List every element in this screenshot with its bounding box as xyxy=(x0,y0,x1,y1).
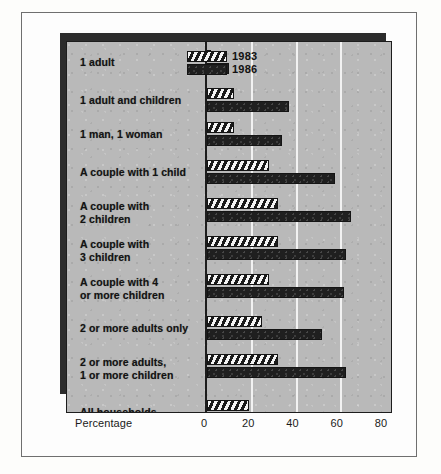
category-label-line1: 1 adult and children xyxy=(80,94,181,107)
category-label-column: 1 adult1 adult and children1 man, 1 woma… xyxy=(67,42,205,412)
category-label-8: 2 or more adults,1 or more children xyxy=(80,356,173,381)
bar-1983-row-3 xyxy=(207,160,269,171)
category-label-line2: 3 children xyxy=(80,251,149,264)
category-label-line1: 2 or more adults, xyxy=(80,356,173,369)
legend-label-1986: 1986 xyxy=(232,63,257,75)
bar-1983-row-6 xyxy=(207,274,269,285)
legend-item-1983: 1983 xyxy=(187,50,257,62)
x-tick-0: 0 xyxy=(201,417,207,429)
bar-1986-row-1 xyxy=(207,101,289,112)
gridline-40 xyxy=(296,42,298,412)
gridline-60 xyxy=(340,42,342,412)
x-tick-20: 20 xyxy=(242,417,254,429)
bar-1986-row-8 xyxy=(207,367,346,378)
category-label-4: A couple with2 children xyxy=(80,200,149,225)
bar-1983-row-9 xyxy=(207,400,249,411)
x-tick-60: 60 xyxy=(331,417,343,429)
legend-item-1986: 1986 xyxy=(187,63,257,75)
bar-1986-row-7 xyxy=(207,329,322,340)
category-label-5: A couple with3 children xyxy=(80,238,149,263)
bar-1983-row-7 xyxy=(207,316,262,327)
bar-1986-row-6 xyxy=(207,287,344,298)
chart-legend: 1983 1986 xyxy=(187,50,257,75)
category-label-line1: 1 man, 1 woman xyxy=(80,128,163,141)
bar-1986-row-2 xyxy=(207,135,282,146)
category-label-line1: A couple with xyxy=(80,238,149,251)
bar-1986-row-3 xyxy=(207,173,335,184)
chart-panel: 1 adult1 adult and children1 man, 1 woma… xyxy=(66,41,392,413)
category-label-3: A couple with 1 child xyxy=(80,166,186,179)
category-label-line2: 1 or more children xyxy=(80,369,173,382)
category-label-line1: A couple with xyxy=(80,200,149,213)
hatched-swatch-icon xyxy=(187,51,227,62)
category-label-6: A couple with 4or more children xyxy=(80,276,164,301)
bar-1983-row-2 xyxy=(207,122,234,133)
category-label-1: 1 adult and children xyxy=(80,94,181,107)
bar-1983-row-8 xyxy=(207,354,278,365)
category-label-line2: or more children xyxy=(80,289,164,302)
x-axis: Percentage 020406080 xyxy=(66,414,392,436)
category-label-line1: All households xyxy=(80,406,157,413)
chart-page: 1 adult1 adult and children1 man, 1 woma… xyxy=(0,0,441,474)
bar-1986-row-4 xyxy=(207,211,351,222)
solid-swatch-icon xyxy=(187,64,227,75)
plot-area xyxy=(205,42,391,412)
category-label-7: 2 or more adults only xyxy=(80,322,188,335)
category-label-9: All households xyxy=(80,406,157,413)
x-tick-80: 80 xyxy=(375,417,387,429)
category-label-2: 1 man, 1 woman xyxy=(80,128,163,141)
bar-1983-row-4 xyxy=(207,198,278,209)
bar-1986-row-5 xyxy=(207,249,346,260)
category-label-line1: 1 adult xyxy=(80,56,115,69)
category-label-line1: 2 or more adults only xyxy=(80,322,188,335)
category-label-line1: A couple with 1 child xyxy=(80,166,186,179)
x-tick-40: 40 xyxy=(286,417,298,429)
category-label-line2: 2 children xyxy=(80,213,149,226)
legend-label-1983: 1983 xyxy=(232,50,257,62)
category-label-0: 1 adult xyxy=(80,56,115,69)
axis-title-percentage: Percentage xyxy=(75,417,132,429)
bar-1983-row-5 xyxy=(207,236,278,247)
category-label-line1: A couple with 4 xyxy=(80,276,164,289)
bar-1983-row-1 xyxy=(207,88,234,99)
